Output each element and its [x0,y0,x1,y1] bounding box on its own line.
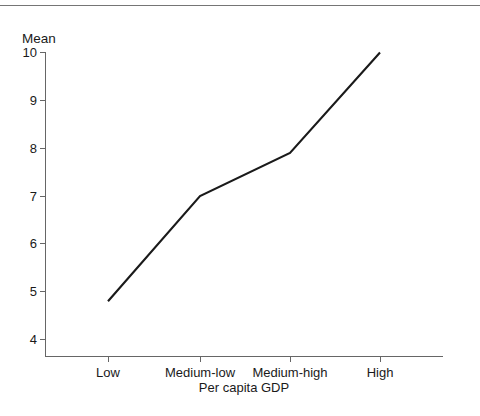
y-tick-label-8: 8 [30,141,37,156]
x-axis-ticks: Low Medium-low Medium-high High [96,357,393,380]
y-tick-label-6: 6 [30,236,37,251]
mean-series-line [108,53,380,302]
x-tick-label-medium-low: Medium-low [165,365,236,380]
y-tick-label-7: 7 [30,189,37,204]
chart-svg: Mean 10 9 8 7 6 5 4 [0,0,480,416]
x-axis-title: Per capita GDP [199,380,289,395]
y-tick-label-5: 5 [30,284,37,299]
chart-page: Mean 10 9 8 7 6 5 4 [0,0,480,416]
y-tick-label-9: 9 [30,93,37,108]
y-axis-title: Mean [22,31,56,46]
x-tick-label-high: High [367,365,394,380]
x-tick-label-low: Low [96,365,120,380]
y-tick-label-10: 10 [23,45,37,60]
y-tick-label-4: 4 [30,332,37,347]
line-chart: Mean 10 9 8 7 6 5 4 [0,0,480,416]
y-axis-ticks: 10 9 8 7 6 5 4 [23,45,45,347]
x-tick-label-medium-high: Medium-high [252,365,327,380]
